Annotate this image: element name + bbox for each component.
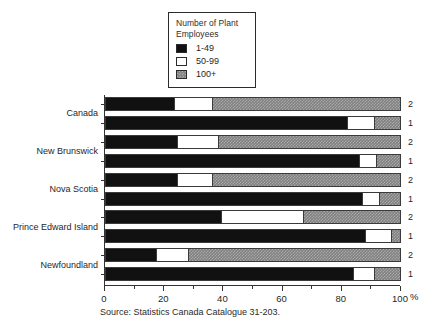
bar-segment-100-plus	[379, 193, 400, 205]
x-axis-tick	[104, 286, 105, 291]
bar-index-label: 1	[408, 118, 413, 128]
bar-segment-50-99	[177, 136, 218, 148]
x-axis-tick	[282, 286, 283, 291]
bar-segment-1-49	[106, 155, 359, 167]
group-label-canada: Canada	[66, 108, 98, 118]
x-axis-tick-label: 40	[217, 293, 228, 304]
bar-segment-50-99	[221, 211, 303, 223]
x-axis-tick	[134, 286, 135, 289]
bar-segment-50-99	[365, 230, 391, 242]
bar-nova-scotia-1: 1	[105, 192, 401, 206]
legend-item-50-99: 50-99	[176, 55, 249, 67]
bar-segment-100-plus	[303, 211, 400, 223]
bar-segment-1-49	[106, 211, 221, 223]
bar-segment-50-99	[156, 249, 188, 261]
legend-item-100-plus: 100+	[176, 68, 249, 80]
bar-segment-50-99	[174, 98, 212, 110]
group-label-prince-edward-island: Prince Edward Island	[13, 222, 98, 232]
bar-segment-1-49	[106, 174, 177, 186]
bar-segment-1-49	[106, 117, 347, 129]
legend-swatch-icon-1-49	[176, 44, 187, 53]
legend-title-line1: Number of Plant	[176, 18, 249, 29]
x-axis-tick	[370, 286, 371, 289]
y-axis-tick	[101, 236, 105, 237]
bar-segment-1-49	[106, 193, 362, 205]
x-axis: 020406080100	[104, 285, 400, 286]
bar-segment-1-49	[106, 249, 156, 261]
x-axis-tick	[341, 286, 342, 291]
legend-label-100-plus: 100+	[196, 69, 216, 79]
y-axis-tick	[101, 255, 105, 256]
legend-label-50-99: 50-99	[196, 56, 219, 66]
x-axis-tick-label: 60	[276, 293, 287, 304]
y-axis-tick	[101, 199, 105, 200]
x-axis-tick	[400, 286, 401, 291]
x-axis-tick-label: 80	[336, 293, 347, 304]
bar-segment-100-plus	[376, 155, 400, 167]
bar-segment-100-plus	[188, 249, 400, 261]
x-axis-tick	[222, 286, 223, 291]
y-axis-tick	[101, 274, 105, 275]
bar-index-label: 1	[408, 269, 413, 279]
group-label-new-brunswick: New Brunswick	[36, 146, 98, 156]
bar-index-label: 1	[408, 194, 413, 204]
x-axis-tick	[163, 286, 164, 291]
bar-segment-100-plus	[218, 136, 400, 148]
x-axis-unit-label: %	[410, 291, 418, 302]
bar-segment-50-99	[362, 193, 380, 205]
bar-nova-scotia-2: 2	[105, 173, 401, 187]
legend-item-1-49: 1-49	[176, 42, 249, 54]
bar-index-label: 2	[408, 212, 413, 222]
bar-index-label: 2	[408, 250, 413, 260]
bar-segment-50-99	[353, 268, 374, 280]
bar-index-label: 2	[408, 137, 413, 147]
bar-new-brunswick-1: 1	[105, 154, 401, 168]
bar-newfoundland-1: 1	[105, 267, 401, 281]
bar-index-label: 1	[408, 156, 413, 166]
plot-area: 2121212121CanadaNew BrunswickNova Scotia…	[104, 95, 401, 285]
legend-title-line2: Employees	[176, 29, 249, 40]
y-axis-tick	[101, 180, 105, 181]
bar-segment-1-49	[106, 136, 177, 148]
x-axis-tick	[311, 286, 312, 289]
bar-canada-1: 1	[105, 116, 401, 130]
bar-segment-100-plus	[391, 230, 400, 242]
bar-segment-1-49	[106, 230, 365, 242]
y-axis-tick	[101, 161, 105, 162]
bar-segment-100-plus	[212, 174, 400, 186]
y-axis-tick	[101, 104, 105, 105]
x-axis-tick-label: 0	[101, 293, 106, 304]
x-axis-tick-label: 100	[392, 293, 408, 304]
bar-prince-edward-island-1: 1	[105, 229, 401, 243]
legend-swatch-icon-50-99	[176, 57, 187, 66]
y-axis-tick	[101, 123, 105, 124]
legend-title: Number of Plant Employees	[176, 18, 249, 39]
bar-newfoundland-2: 2	[105, 248, 401, 262]
bar-segment-1-49	[106, 98, 174, 110]
bar-segment-100-plus	[374, 268, 400, 280]
y-axis-tick	[101, 142, 105, 143]
source-note: Source: Statistics Canada Catalogue 31-2…	[100, 307, 280, 317]
legend-label-1-49: 1-49	[196, 43, 214, 53]
x-axis-tick-label: 20	[158, 293, 169, 304]
bar-canada-2: 2	[105, 97, 401, 111]
bar-segment-100-plus	[212, 98, 400, 110]
bar-segment-100-plus	[374, 117, 400, 129]
bar-segment-50-99	[347, 117, 373, 129]
bar-index-label: 2	[408, 175, 413, 185]
y-axis-tick	[101, 217, 105, 218]
bar-new-brunswick-2: 2	[105, 135, 401, 149]
bar-segment-50-99	[177, 174, 212, 186]
x-axis-tick	[193, 286, 194, 289]
bar-index-label: 2	[408, 99, 413, 109]
group-label-nova-scotia: Nova Scotia	[49, 184, 98, 194]
bar-segment-1-49	[106, 268, 353, 280]
bar-prince-edward-island-2: 2	[105, 210, 401, 224]
legend-swatch-icon-100-plus	[176, 70, 187, 79]
group-label-newfoundland: Newfoundland	[40, 260, 98, 270]
bar-segment-50-99	[359, 155, 377, 167]
x-axis-tick	[252, 286, 253, 289]
chart-legend: Number of Plant Employees 1-49 50-99 100…	[168, 12, 256, 88]
bar-index-label: 1	[408, 231, 413, 241]
